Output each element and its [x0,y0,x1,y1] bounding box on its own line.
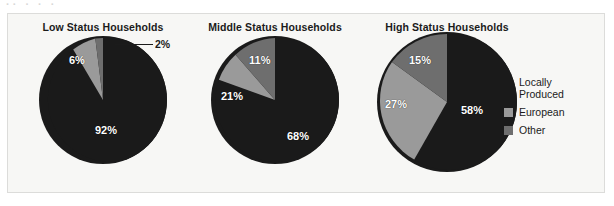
pie-panel-middle-status: Middle Status Households 68% 21% 11% [186,14,364,192]
callout-value-other: 2% [155,38,170,50]
slice-value-locally-produced: 58% [461,104,483,116]
pie-chart-middle-status: 68% 21% 11% [211,36,339,164]
legend-item-other: Other [504,124,600,136]
figure-frame: Low Status Households 92% 6% 2% Middle S… [7,13,605,193]
chart-legend: Locally Produced European Other [504,76,600,142]
slice-value-european: 27% [385,98,407,110]
legend-label-locally-produced: Locally Produced [519,76,564,100]
pie-chart-low-status: 92% 6% [39,36,167,164]
pie-title-low-status: Low Status Households [14,21,192,33]
slice-value-other: 11% [249,54,270,66]
legend-label-other: Other [519,124,545,136]
slice-value-european: 6% [69,54,85,66]
pie-panel-low-status: Low Status Households 92% 6% 2% [14,14,192,192]
cut-off-text-above-figure: ·· · · · [0,0,614,13]
legend-item-european: European [504,106,600,118]
legend-item-locally-produced: Locally Produced [504,76,600,100]
legend-label-european: European [519,106,565,118]
pie-chart-high-status: 58% 27% 15% [377,32,517,172]
pie-title-middle-status: Middle Status Households [186,21,364,33]
slice-value-other: 15% [409,54,431,66]
callout-leader-line-other [115,44,153,45]
legend-swatch-icon-european [504,108,513,117]
slice-locally-produced [48,38,167,162]
legend-swatch-icon-other [504,126,513,135]
slice-value-locally-produced: 68% [287,130,309,142]
slice-value-locally-produced: 92% [95,124,117,136]
slice-value-european: 21% [221,90,243,102]
legend-swatch-icon-locally-produced [504,78,513,87]
pie-slices-low-status [39,36,167,164]
